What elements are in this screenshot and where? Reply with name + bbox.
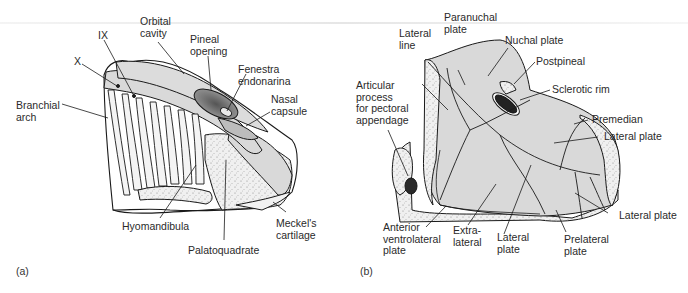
label-nerve-ix: IX <box>98 30 108 42</box>
label-orbital-cavity: Orbital cavity <box>140 16 171 39</box>
label-hyomandibula: Hyomandibula <box>122 221 189 233</box>
label-paranuchal-plate: Paranuchal plate <box>444 12 497 35</box>
label-extralateral: Extra- lateral <box>453 225 482 248</box>
panel-b-headshield <box>392 40 620 222</box>
label-lateral-line: Lateral line <box>399 28 431 51</box>
label-nuchal-plate: Nuchal plate <box>505 35 563 47</box>
label-branchial-arch: Branchial arch <box>16 100 60 123</box>
label-prelateral-plate: Prelateral plate <box>564 234 609 257</box>
label-nerve-x: X <box>74 56 81 68</box>
panel-label-b: (b) <box>360 265 373 277</box>
label-anterior-ventrolateral-plate: Anterior ventrolateral plate <box>383 222 441 257</box>
label-postpineal: Postpineal <box>536 56 585 68</box>
label-lateral-plate-right: Lateral plate <box>619 210 677 222</box>
label-nasal-capsule: Nasal capsule <box>271 94 307 117</box>
label-palatoquadrate: Palatoquadrate <box>188 245 259 257</box>
label-articular-process: Articular process for pectoral appendage <box>356 80 409 126</box>
label-meckels-cartilage: Meckel's cartilage <box>276 218 317 241</box>
label-pineal-opening: Pineal opening <box>190 34 227 57</box>
panel-label-a: (a) <box>16 265 29 277</box>
label-lateral-plate-upper: Lateral plate <box>604 131 662 143</box>
label-fenestra-endonarina: Fenestra endonarina <box>238 64 291 87</box>
label-lateral-plate-lower: Lateral plate <box>497 232 529 255</box>
label-sclerotic-rim: Sclerotic rim <box>552 84 610 96</box>
label-premedian: Premedian <box>592 114 643 126</box>
